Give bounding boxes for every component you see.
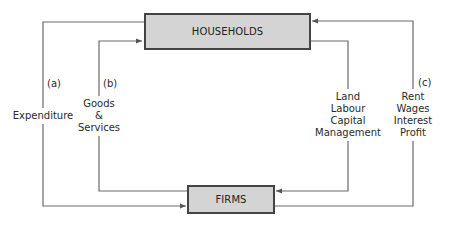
flow-a-tag: (a) [47, 78, 61, 90]
flow-b-label: Goods & Services [74, 96, 124, 136]
flow-a-label-line: Expenditure [5, 110, 81, 122]
flow-factors-label: Land Labour Capital Management [310, 89, 386, 141]
households-box: HOUSEHOLDS [144, 13, 311, 50]
flow-factors-label-line: Labour [310, 103, 386, 115]
flow-factors-label-line: Management [310, 127, 386, 139]
flow-b-label-line: & [74, 110, 124, 122]
flow-b-label-line: Goods [74, 98, 124, 110]
flow-a-label: Expenditure [5, 108, 81, 124]
flow-c-label-line: Profit [388, 127, 438, 139]
flow-b-label-line: Services [74, 122, 124, 134]
firms-box: FIRMS [187, 185, 275, 214]
flow-c-label: Rent Wages Interest Profit [388, 89, 438, 141]
flow-factors-label-line: Land [310, 91, 386, 103]
flow-c-label-line: Rent [388, 91, 438, 103]
flow-c-tag: (c) [418, 77, 431, 89]
flow-factors-label-line: Capital [310, 115, 386, 127]
flow-c-label-line: Wages [388, 103, 438, 115]
households-label: HOUSEHOLDS [192, 26, 263, 37]
flow-c-label-line: Interest [388, 115, 438, 127]
flow-b-tag: (b) [103, 78, 117, 90]
firms-label: FIRMS [215, 194, 246, 205]
